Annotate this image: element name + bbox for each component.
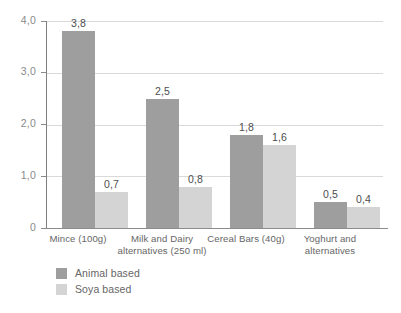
bar-value-label: 1,8 bbox=[239, 122, 254, 133]
x-category-label-line: Cereal Bars (40g) bbox=[198, 233, 294, 245]
legend: Animal based Soya based bbox=[56, 266, 140, 298]
legend-swatch-icon bbox=[56, 268, 67, 279]
bar-group-cereal-bars: 1,8 1,6 bbox=[230, 21, 296, 228]
bar-value-label: 0,8 bbox=[188, 174, 203, 185]
bar-value-label: 0,7 bbox=[104, 179, 119, 190]
bar-chart: 4,0 3,0 2,0 1,0 0 3,8 0,7 2,5 bbox=[0, 0, 401, 313]
bar-value-label: 3,8 bbox=[71, 18, 86, 29]
bar-soya-based: 0,8 bbox=[179, 187, 212, 228]
bar-value-label: 0,5 bbox=[323, 189, 338, 200]
bar-animal-based: 0,5 bbox=[314, 202, 347, 228]
legend-label: Animal based bbox=[75, 267, 140, 279]
bar-value-label: 2,5 bbox=[155, 86, 170, 97]
x-category-label-line: alternatives bbox=[282, 245, 378, 257]
legend-label: Soya based bbox=[75, 283, 131, 295]
plot-area: 3,8 0,7 2,5 0,8 1,8 1,6 bbox=[47, 21, 383, 228]
bar-group-yoghurt-and-alternatives: 0,5 0,4 bbox=[314, 21, 380, 228]
y-tick-label-4: 4,0 bbox=[0, 15, 36, 26]
x-category-label-milk-and-dairy-alternatives: Milk and Dairy alternatives (250 ml) bbox=[114, 233, 210, 257]
y-tick-label-1: 1,0 bbox=[0, 170, 36, 181]
y-tick-label-0: 0 bbox=[0, 222, 36, 233]
x-category-label-line: alternatives (250 ml) bbox=[114, 245, 210, 257]
bar-value-label: 1,6 bbox=[272, 132, 287, 143]
x-category-label-cereal-bars: Cereal Bars (40g) bbox=[198, 233, 294, 245]
x-category-label-yoghurt-and-alternatives: Yoghurt and alternatives bbox=[282, 233, 378, 257]
x-category-label-line: Yoghurt and bbox=[282, 233, 378, 245]
legend-item-animal-based: Animal based bbox=[56, 266, 140, 280]
legend-item-soya-based: Soya based bbox=[56, 282, 140, 296]
bar-group-mince: 3,8 0,7 bbox=[62, 21, 128, 228]
x-category-label-mince: Mince (100g) bbox=[30, 233, 126, 245]
legend-swatch-icon bbox=[56, 284, 67, 295]
bar-soya-based: 0,4 bbox=[347, 207, 380, 228]
x-axis-line bbox=[41, 228, 388, 229]
y-tick-label-2: 2,0 bbox=[0, 118, 36, 129]
bar-animal-based: 2,5 bbox=[146, 99, 179, 228]
bar-soya-based: 1,6 bbox=[263, 145, 296, 228]
x-category-label-line: Milk and Dairy bbox=[114, 233, 210, 245]
bar-animal-based: 3,8 bbox=[62, 31, 95, 228]
bar-animal-based: 1,8 bbox=[230, 135, 263, 228]
bar-soya-based: 0,7 bbox=[95, 192, 128, 228]
y-tick-label-3: 3,0 bbox=[0, 66, 36, 77]
x-category-label-line: Mince (100g) bbox=[30, 233, 126, 245]
bar-group-milk-and-dairy-alternatives: 2,5 0,8 bbox=[146, 21, 212, 228]
bar-value-label: 0,4 bbox=[356, 194, 371, 205]
